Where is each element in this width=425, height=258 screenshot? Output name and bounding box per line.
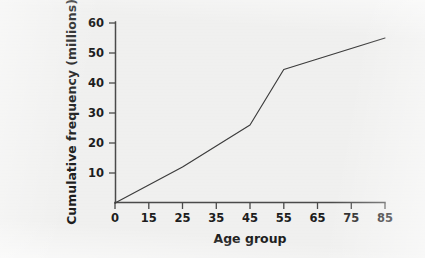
x-axis-title: Age group: [214, 231, 287, 246]
y-axis-ticks: [109, 23, 115, 173]
x-tick-label-45: 45: [242, 211, 258, 225]
y-tick-label-40: 40: [88, 76, 104, 90]
x-tick-label-25: 25: [174, 211, 190, 225]
cumulative-frequency-chart: 10 20 30 40 50 60 0 15 25 35 45 55 65 75…: [0, 0, 425, 258]
x-axis-tick-labels: 0 15 25 35 45 55 65 75 85: [111, 211, 393, 225]
y-tick-label-50: 50: [88, 46, 104, 60]
x-tick-label-15: 15: [141, 211, 157, 225]
y-axis-tick-labels: 10 20 30 40 50 60: [88, 16, 104, 180]
x-tick-label-65: 65: [309, 211, 325, 225]
x-tick-label-55: 55: [276, 211, 292, 225]
figure-container: 10 20 30 40 50 60 0 15 25 35 45 55 65 75…: [0, 0, 425, 258]
x-tick-label-35: 35: [208, 211, 224, 225]
x-tick-label-0: 0: [111, 211, 119, 225]
y-tick-label-20: 20: [88, 136, 104, 150]
x-tick-label-85: 85: [377, 211, 393, 225]
x-tick-label-75: 75: [343, 211, 359, 225]
cumulative-frequency-line: [115, 38, 385, 203]
y-tick-label-60: 60: [88, 16, 104, 30]
y-tick-label-10: 10: [88, 166, 104, 180]
y-axis-title: Cumulative frequency (millions): [64, 0, 79, 225]
y-tick-label-30: 30: [88, 106, 104, 120]
x-axis-ticks: [115, 203, 385, 209]
